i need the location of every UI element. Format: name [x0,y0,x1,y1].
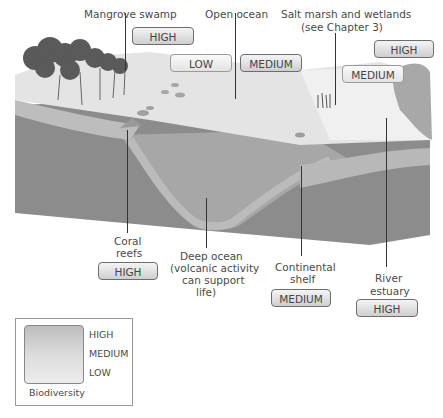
badge-coral-high: HIGH [98,262,158,280]
badge-open-ocean-low: LOW [170,54,232,72]
label-deep-ocean-line3: can support [182,274,245,286]
biodiversity-legend: HIGH MEDIUM LOW Biodiversity [15,318,133,406]
pointer-river-estuary [386,118,387,267]
badge-continental-shelf-medium: MEDIUM [271,289,331,307]
legend-title: Biodiversity [29,387,85,398]
legend-high: HIGH [89,329,113,340]
legend-gradient-swatch [24,325,84,384]
label-open-ocean: Open ocean [205,8,268,20]
label-river-estuary-line1: River [375,272,402,284]
pointer-coral [127,130,128,233]
pointer-deep-ocean [206,198,207,248]
label-salt-marsh-line1: Salt marsh and wetlands [281,8,411,20]
badge-river-estuary-high: HIGH [356,299,418,317]
pointer-open-ocean [235,13,236,99]
label-salt-marsh-line2: (see Chapter 3) [301,21,383,33]
label-river-estuary-line2: estuary [370,285,410,297]
label-deep-ocean-line4: life) [196,286,216,298]
label-coral-line2: reefs [116,247,142,259]
badge-salt-marsh-high: HIGH [374,40,434,58]
badge-mangrove-high: HIGH [132,27,194,45]
label-deep-ocean-line2: (volcanic activity [170,262,259,274]
badge-salt-marsh-medium: MEDIUM [342,65,404,83]
label-continental-shelf-line2: shelf [290,273,315,285]
label-deep-ocean-line1: Deep ocean [180,250,243,262]
label-coral-line1: Coral [114,235,141,247]
pointer-continental-shelf [301,166,302,256]
label-continental-shelf-line1: Continental [275,261,336,273]
label-mangrove-swamp: Mangrove swamp [84,8,177,20]
legend-medium: MEDIUM [89,348,128,359]
badge-open-ocean-medium: MEDIUM [240,54,302,72]
pointer-mangrove [125,13,126,71]
legend-low: LOW [89,367,111,378]
pointer-salt-marsh [335,33,336,105]
